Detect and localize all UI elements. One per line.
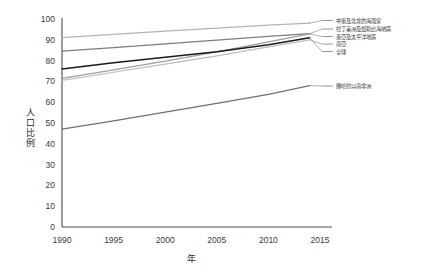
y-tick-label: 0	[50, 222, 55, 232]
legend-label: 全球	[336, 48, 347, 55]
chart-canvas: 0102030405060708090100 19901995200020052…	[0, 0, 426, 270]
y-axis-title: 人口比例	[25, 108, 35, 148]
x-tick-label: 2010	[259, 235, 278, 245]
y-tick-label: 30	[46, 160, 56, 170]
series-line	[62, 34, 310, 52]
x-tick-label: 2000	[156, 235, 175, 245]
leader-line	[310, 34, 322, 37]
legend-leader-lines	[310, 21, 322, 87]
y-tick-label: 20	[46, 180, 56, 190]
legend-label: 撒哈拉以南非洲	[336, 82, 371, 90]
leader-line	[310, 38, 322, 52]
y-tick-label: 40	[46, 139, 56, 149]
legend-label: 中東及北非的海灣家	[336, 17, 382, 25]
line-chart: 0102030405060708090100 19901995200020052…	[0, 0, 426, 270]
leader-line	[310, 21, 322, 24]
y-axis: 0102030405060708090100	[41, 14, 62, 232]
y-tick-label: 50	[46, 118, 56, 128]
legend-label: 拉丁美洲及加勒比海地區	[336, 25, 392, 33]
leader-line	[310, 29, 322, 34]
y-tick-label: 10	[46, 201, 56, 211]
legend: 中東及北非的海灣家拉丁美洲及加勒比海地區東亞及太平洋地區南亞全球撒哈拉以南非洲	[322, 17, 392, 91]
x-axis-title: 年	[187, 253, 196, 264]
y-tick-label: 100	[41, 14, 55, 24]
y-tick-label: 80	[46, 56, 56, 66]
legend-label: 南亞	[336, 40, 347, 47]
y-tick-label: 90	[46, 35, 56, 45]
leader-line	[310, 40, 322, 44]
x-tick-label: 1995	[104, 235, 123, 245]
x-tick-label: 2015	[311, 235, 330, 245]
series-line	[62, 34, 310, 78]
y-tick-label: 70	[46, 76, 56, 86]
y-tick-label: 60	[46, 97, 56, 107]
x-tick-label: 2005	[207, 235, 226, 245]
x-tick-label: 1990	[53, 235, 72, 245]
series-lines	[62, 23, 310, 129]
series-line	[62, 23, 310, 38]
legend-label: 東亞及太平洋地區	[336, 33, 377, 41]
series-line	[62, 40, 310, 81]
series-line	[62, 86, 310, 130]
x-axis: 199019952000200520102015	[53, 227, 332, 245]
